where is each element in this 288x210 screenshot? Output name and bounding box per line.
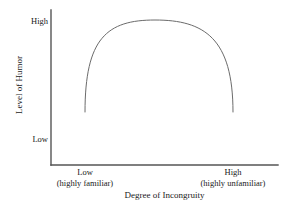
chart-figure: High Low Low (highly familiar) High (hig… (0, 0, 288, 210)
y-tick-label-high: High (20, 16, 48, 26)
x-axis-title: Degree of Incongruity (51, 190, 278, 200)
y-tick-label-low: Low (20, 134, 48, 144)
x-tick-sublabel-low: (highly familiar) (25, 178, 145, 189)
x-tick-label-high: High (173, 167, 288, 178)
humor-curve (85, 20, 233, 112)
y-axis-title: Level of Humor (14, 30, 24, 140)
x-tick-group-high: High (highly unfamiliar) (173, 167, 288, 189)
x-tick-group-low: Low (highly familiar) (25, 167, 145, 189)
x-tick-sublabel-high: (highly unfamiliar) (173, 178, 288, 189)
x-tick-label-low: Low (25, 167, 145, 178)
